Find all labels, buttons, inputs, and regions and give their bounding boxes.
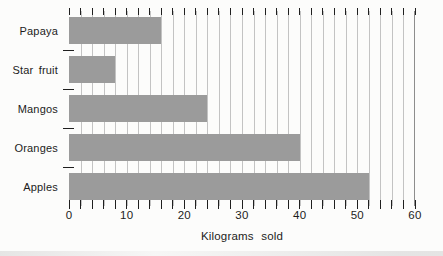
x-axis-tick [126,200,127,209]
x-axis-tick [391,200,392,209]
x-axis-tick [149,200,150,209]
top-border-tick [276,8,277,15]
top-border-tick [115,8,116,15]
x-axis-tick [218,200,219,209]
x-axis-tick [103,200,104,209]
x-axis-tick [345,200,346,209]
top-border-tick [242,8,243,15]
x-axis-tick [230,200,231,209]
top-border-tick [253,8,254,15]
x-axis-tick [195,200,196,209]
x-tick-label: 40 [280,209,320,221]
top-border-tick [391,8,392,15]
top-border-tick [322,8,323,15]
x-axis-tick [299,200,300,209]
x-axis-tick [80,200,81,209]
bar-oranges [69,134,300,161]
y-axis-tick [63,167,74,168]
top-border-tick [195,8,196,15]
x-axis-tick [69,200,70,209]
bar-star-fruit [69,56,115,83]
x-axis-tick [368,200,369,209]
bar-papaya [69,17,161,44]
right-border-line [414,11,415,206]
top-border-tick [207,8,208,15]
top-border-tick [403,8,404,15]
x-axis-tick [265,200,266,209]
y-axis-tick [63,89,74,90]
category-label-star-fruit: Star fruit [0,63,58,77]
x-axis-tick [92,200,93,209]
x-tick-label: 30 [222,209,262,221]
x-axis-tick [357,200,358,209]
x-axis-tick [334,200,335,209]
x-axis-tick [184,200,185,209]
bar-chart-figure: Kilograms sold PapayaStar fruitMangosOra… [0,0,443,256]
top-border-tick [345,8,346,15]
category-label-oranges: Oranges [0,141,58,155]
top-border-tick [299,8,300,15]
top-border-tick [265,8,266,15]
top-border-tick [69,8,70,15]
top-border-tick [357,8,358,15]
x-tick-label: 10 [107,209,147,221]
top-border-tick [92,8,93,15]
y-axis-line [68,11,70,206]
category-label-apples: Apples [0,180,58,194]
scan-artifact-bottom [0,251,443,256]
x-axis-tick [311,200,312,209]
x-axis-tick [115,200,116,209]
bar-mangos [69,95,207,122]
bar-apples [69,173,369,200]
x-tick-label: 50 [337,209,377,221]
top-border-tick [172,8,173,15]
x-axis-title: Kilograms sold [162,230,322,242]
gridline [403,11,404,206]
x-tick-label: 20 [164,209,204,221]
top-border-tick [311,8,312,15]
top-border-tick [334,8,335,15]
top-border-tick [288,8,289,15]
top-border-tick [138,8,139,15]
x-axis-tick [138,200,139,209]
top-border-tick [103,8,104,15]
top-border-tick [380,8,381,15]
top-border-tick [161,8,162,15]
category-label-mangos: Mangos [0,102,58,116]
x-axis-tick [415,200,416,209]
gridline [392,11,393,206]
gridline [369,11,370,206]
x-axis-tick [207,200,208,209]
x-axis-tick [253,200,254,209]
x-tick-label: 0 [49,209,89,221]
x-axis-tick [172,200,173,209]
y-axis-tick [63,50,74,51]
top-border-tick [184,8,185,15]
category-label-papaya: Papaya [0,24,58,38]
top-border-tick [368,8,369,15]
x-axis-tick [276,200,277,209]
top-border-tick [218,8,219,15]
x-axis-tick [242,200,243,209]
x-axis-tick [322,200,323,209]
y-axis-tick [63,128,74,129]
gridline [380,11,381,206]
x-axis-tick [380,200,381,209]
top-border-tick [149,8,150,15]
x-tick-label: 60 [395,209,435,221]
top-border-tick [415,8,416,15]
top-border-tick [80,8,81,15]
x-axis-tick [403,200,404,209]
top-border-tick [230,8,231,15]
top-border-tick [126,8,127,15]
plot-area [69,11,415,206]
x-axis-tick [288,200,289,209]
x-axis-tick [161,200,162,209]
